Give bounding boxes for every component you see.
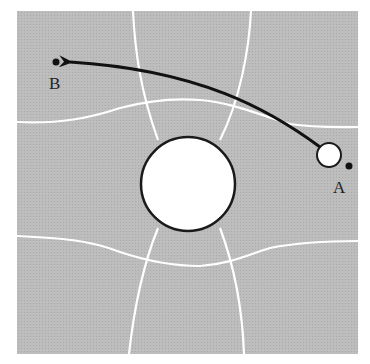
- point-a-dot: [346, 163, 353, 170]
- point-b-dot: [53, 59, 60, 66]
- point-a-label: A: [333, 178, 346, 197]
- point-b-label: B: [49, 74, 60, 93]
- equipotential-diagram: A B: [0, 0, 370, 364]
- test-charge: [317, 143, 341, 167]
- conductor-sphere: [141, 137, 235, 231]
